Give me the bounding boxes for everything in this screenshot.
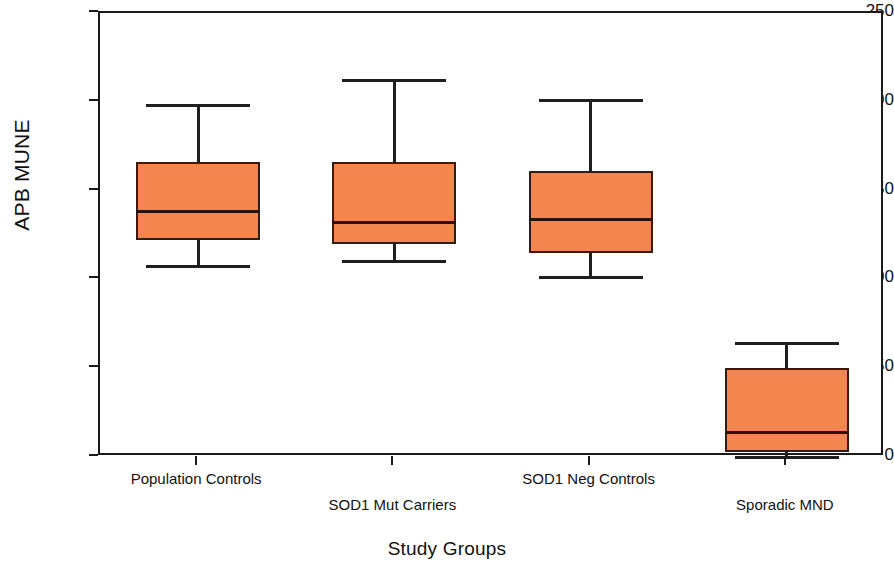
x-axis-tick: [391, 456, 393, 465]
x-axis-tick-label: Population Controls: [131, 470, 262, 487]
median-line: [136, 210, 260, 213]
lower-whisker-stem: [589, 253, 592, 278]
upper-whisker-cap: [539, 99, 643, 102]
x-axis-tick-label: SOD1 Mut Carriers: [329, 496, 457, 513]
median-line: [725, 431, 849, 434]
y-axis-tick: [89, 10, 98, 12]
x-axis-tick: [588, 456, 590, 465]
x-axis-title: Study Groups: [0, 538, 894, 560]
lower-whisker-stem: [197, 240, 200, 267]
y-axis-tick: [89, 188, 98, 190]
upper-whisker-stem: [393, 80, 396, 162]
upper-whisker-stem: [197, 105, 200, 162]
median-line: [332, 221, 456, 224]
y-axis-tick: [89, 454, 98, 456]
upper-whisker-stem: [785, 343, 788, 368]
upper-whisker-cap: [342, 79, 446, 82]
x-axis-tick-label: SOD1 Neg Controls: [522, 470, 655, 487]
upper-whisker-stem: [589, 100, 592, 171]
lower-whisker-cap: [342, 260, 446, 263]
lower-whisker-cap: [539, 276, 643, 279]
box-plot-figure: APB MUNE 250200150100500 Population Cont…: [0, 0, 894, 580]
y-axis-title: APB MUNE: [10, 95, 34, 255]
x-axis-tick: [195, 456, 197, 465]
upper-whisker-cap: [735, 342, 839, 345]
lower-whisker-cap: [735, 456, 839, 459]
x-axis-tick-label: Sporadic MND: [736, 496, 834, 513]
y-axis-tick: [89, 276, 98, 278]
lower-whisker-cap: [146, 265, 250, 268]
y-axis-tick: [89, 99, 98, 101]
y-axis-tick: [89, 365, 98, 367]
median-line: [529, 218, 653, 221]
box-iqr-rect: [529, 171, 653, 253]
box-iqr-rect: [725, 368, 849, 451]
upper-whisker-cap: [146, 104, 250, 107]
plot-area: [98, 11, 883, 455]
box-iqr-rect: [332, 162, 456, 244]
box-iqr-rect: [136, 162, 260, 240]
lower-whisker-stem: [393, 244, 396, 262]
x-axis-tick: [784, 456, 786, 465]
